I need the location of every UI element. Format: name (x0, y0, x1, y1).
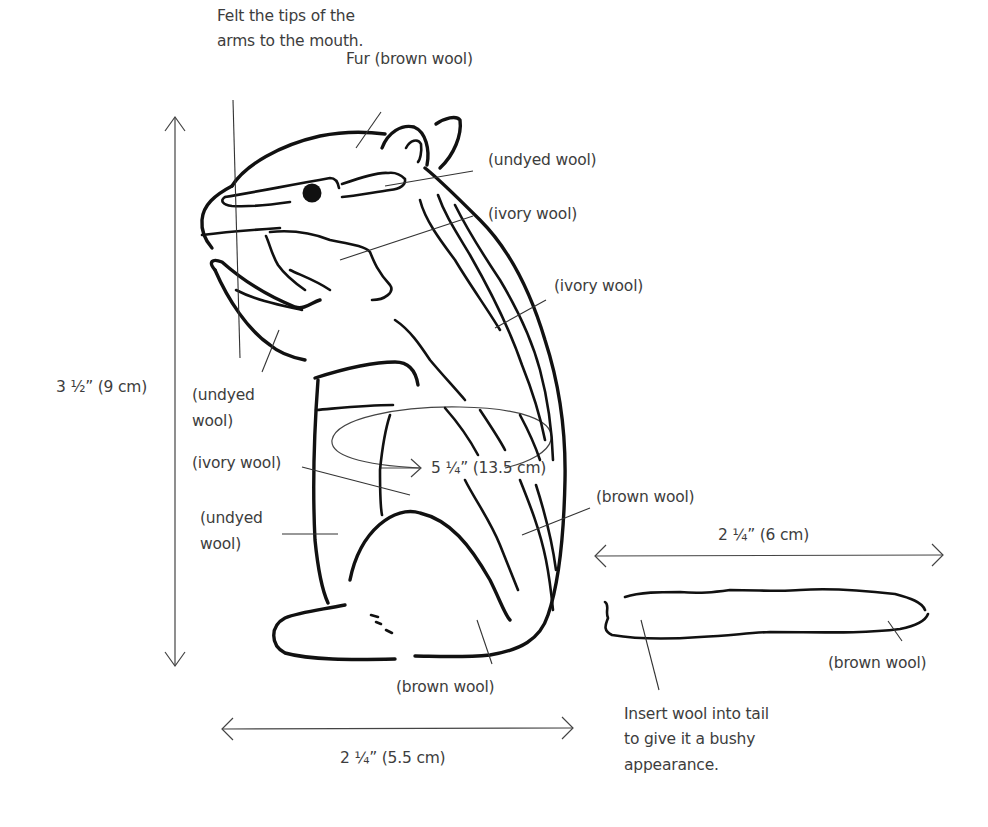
label-undyed-wool-body-line1: (undyed (200, 506, 263, 531)
leader-ivory-cheek (340, 216, 473, 260)
label-ivory-wool-belly: (ivory wool) (192, 451, 281, 476)
label-tail-dimension: 2 ¼” (6 cm) (718, 523, 809, 548)
body-length-dimension-arrow (222, 717, 573, 740)
leader-fur (356, 112, 381, 148)
label-felt-tips-line1: Felt the tips of the (217, 4, 355, 29)
chipmunk-tail (605, 589, 928, 638)
height-dimension-arrow (165, 117, 185, 666)
label-fur-brown-wool: Fur (brown wool) (346, 47, 473, 72)
label-tail-note-line3: appearance. (624, 753, 719, 778)
label-ivory-wool-back: (ivory wool) (554, 274, 643, 299)
label-brown-wool-foot: (brown wool) (396, 675, 494, 700)
leader-ivory-belly (302, 467, 410, 495)
label-felt-tips-line2: arms to the mouth. (217, 29, 363, 54)
label-brown-wool-tail: (brown wool) (828, 651, 926, 676)
label-undyed-wool-eye: (undyed wool) (488, 148, 596, 173)
chipmunk-pattern-diagram: Felt the tips of the arms to the mouth. … (0, 0, 988, 827)
label-undyed-wool-arm-line2: wool) (192, 409, 233, 434)
leader-felt-tips (233, 100, 240, 358)
label-undyed-wool-body-line2: wool) (200, 532, 241, 557)
chipmunk-head (202, 117, 460, 360)
label-girth-dimension: 5 ¼” (13.5 cm) (431, 456, 546, 481)
label-brown-wool-side: (brown wool) (596, 485, 694, 510)
leader-lines (233, 100, 902, 690)
label-ivory-wool-cheek: (ivory wool) (488, 202, 577, 227)
chipmunk-drawing (0, 0, 988, 827)
leader-tail-note (641, 620, 659, 690)
label-height-dimension: 3 ½” (9 cm) (56, 375, 147, 400)
label-undyed-wool-arm-line1: (undyed (192, 383, 255, 408)
label-body-length-dimension: 2 ¼” (5.5 cm) (340, 746, 445, 771)
eye (303, 184, 322, 203)
label-tail-note-line1: Insert wool into tail (624, 702, 769, 727)
label-tail-note-line2: to give it a bushy (624, 727, 755, 752)
